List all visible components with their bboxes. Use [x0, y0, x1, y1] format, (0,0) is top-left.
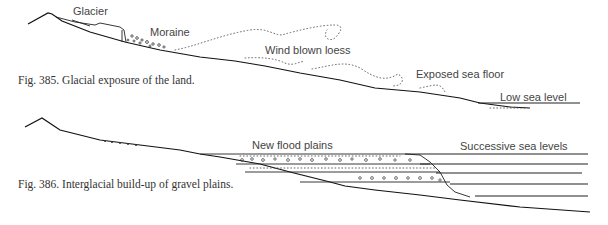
caption-fig-385: Fig. 385. Glacial exposure of the land.	[18, 74, 195, 87]
label-wind-blown-loess: Wind blown loess	[265, 44, 351, 56]
glacier-shape	[56, 17, 126, 42]
loess-cloud-2	[245, 58, 305, 65]
diagram-canvas: Glacier Moraine Wind blown loess Exposed…	[0, 0, 608, 225]
figure-385: Glacier Moraine Wind blown loess Exposed…	[18, 5, 580, 108]
loess-cloud-4	[420, 85, 445, 92]
flood-plain-gravel	[241, 158, 442, 182]
label-moraine: Moraine	[150, 26, 190, 38]
caption-fig-386: Fig. 386. Interglacial build-up of grave…	[18, 178, 233, 191]
loess-cloud-3	[312, 64, 402, 86]
successive-sea-level-lines	[405, 154, 588, 196]
label-glacier: Glacier	[73, 5, 108, 17]
label-successive-sea-levels: Successive sea levels	[460, 140, 568, 152]
figure-386: New flood plains Successive sea levels F…	[18, 118, 590, 212]
land-profile-386	[25, 118, 590, 212]
label-new-flood-plains: New flood plains	[252, 139, 333, 151]
label-exposed-sea-floor: Exposed sea floor	[416, 68, 504, 80]
label-low-sea-level: Low sea level	[500, 91, 567, 103]
